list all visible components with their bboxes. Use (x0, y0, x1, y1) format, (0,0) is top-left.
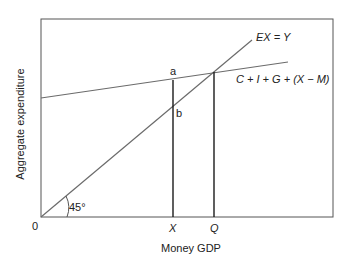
point-a-label: a (170, 65, 176, 77)
point-b-label: b (176, 107, 182, 119)
x-axis-label: Money GDP (161, 242, 221, 254)
forty-five-line-label: EX = Y (256, 31, 290, 43)
y-axis-label: Aggregate expenditure (14, 64, 26, 184)
aggregate-expenditure-label: C + I + G + (X − M) (236, 73, 330, 85)
x-tick-label: X (169, 222, 176, 234)
origin-label: 0 (32, 220, 38, 232)
plot-frame (41, 19, 333, 217)
angle-label: 45° (69, 201, 86, 213)
forty-five-degree-line (41, 40, 252, 217)
q-tick-label: Q (210, 222, 219, 234)
